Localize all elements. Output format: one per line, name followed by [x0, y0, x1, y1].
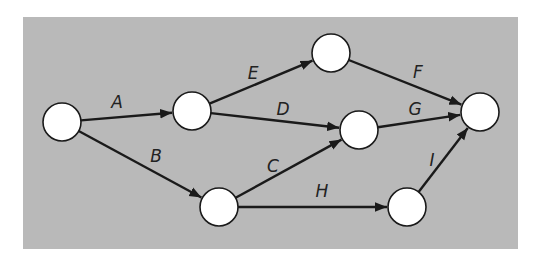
edge-label-a: A [110, 92, 123, 112]
node-circle-n3 [312, 34, 350, 72]
edge-label-h: H [316, 181, 329, 201]
edge-label-b: B [150, 146, 162, 166]
edge-label-g: G [408, 99, 421, 119]
edge-label-c: C [267, 156, 279, 176]
network-diagram: ABEDCHFGI [0, 0, 545, 260]
node-circle-n6 [200, 188, 238, 226]
diagram-background-panel [23, 17, 518, 249]
edge-label-i: I [429, 150, 434, 170]
edge-label-f: F [413, 62, 423, 82]
node-circle-n2 [173, 92, 211, 130]
node-circle-n5 [461, 93, 499, 131]
node-circle-n7 [388, 188, 426, 226]
edge-label-e: E [248, 63, 259, 83]
node-circle-n1 [43, 103, 81, 141]
node-circle-n4 [340, 111, 378, 149]
edge-label-d: D [276, 99, 289, 119]
